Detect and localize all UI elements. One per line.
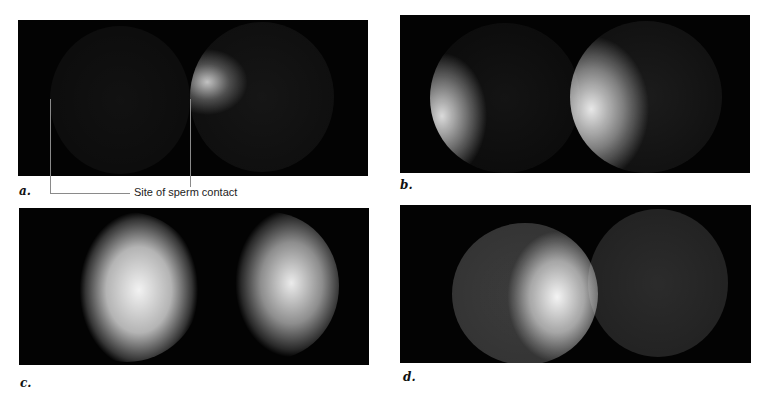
fluorescence-speckle bbox=[588, 209, 728, 357]
fluorescence-speckle bbox=[430, 23, 580, 173]
callout-line-horizontal bbox=[50, 193, 130, 194]
fluorescence-speckle bbox=[570, 21, 722, 173]
callout-line-left-vertical bbox=[50, 99, 51, 194]
egg-left bbox=[430, 23, 580, 173]
egg-right bbox=[588, 209, 728, 357]
fluorescence-speckle bbox=[452, 223, 598, 363]
fluorescence-speckle bbox=[53, 212, 201, 362]
panel-label-b: b. bbox=[400, 178, 413, 192]
callout-line-right-vertical bbox=[190, 99, 191, 187]
egg-right bbox=[190, 22, 334, 172]
egg-right bbox=[199, 212, 339, 360]
callout-site-of-sperm-contact: Site of sperm contact bbox=[134, 186, 237, 198]
fluorescence-speckle bbox=[199, 212, 339, 360]
egg-right bbox=[570, 21, 722, 173]
fluorescence-speckle bbox=[50, 26, 190, 174]
egg-left bbox=[53, 212, 201, 362]
panel-label-c: c. bbox=[20, 376, 31, 390]
panel-b-image bbox=[400, 15, 750, 173]
panel-d-image bbox=[400, 205, 751, 363]
fluorescence-speckle bbox=[190, 22, 334, 172]
panel-label-a: a. bbox=[19, 184, 31, 198]
egg-left bbox=[50, 26, 190, 174]
panel-a-image bbox=[18, 20, 368, 176]
panel-c-image bbox=[19, 208, 369, 365]
panel-label-d: d. bbox=[403, 370, 416, 384]
egg-left bbox=[452, 223, 598, 363]
